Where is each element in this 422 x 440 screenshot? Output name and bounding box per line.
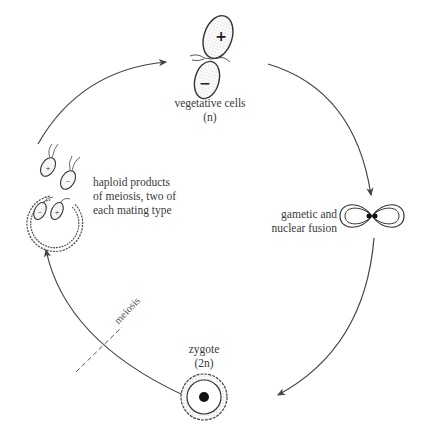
svg-text:+: + [215, 28, 227, 44]
haploid-label-line1: haploid products [93, 175, 176, 189]
zygote-label: zygote (2n) [164, 342, 244, 370]
haploid-label-line3: each mating type [93, 203, 176, 217]
zygote-label-text: zygote [164, 342, 244, 356]
gametic-fusion-icon [340, 205, 404, 228]
svg-text:−: − [38, 208, 43, 217]
svg-text:+: + [46, 164, 51, 173]
vegetative-cells-icon: + − [190, 12, 238, 102]
arrow-zygote-to-haploid [46, 250, 183, 395]
haploid-products-icon: + − − + [29, 144, 81, 250]
fusion-label: gametic and nuclear fusion [240, 207, 337, 235]
svg-text:−: − [199, 75, 211, 91]
svg-text:−: − [66, 177, 71, 186]
fusion-label-line1: gametic and [240, 207, 337, 221]
zygote-icon [181, 374, 227, 420]
zygote-ploidy-text: (2n) [164, 356, 244, 370]
arrow-vegetative-to-fusion [268, 64, 371, 195]
meiosis-dashed-line [76, 327, 122, 372]
arrow-fusion-to-zygote [278, 238, 374, 395]
fusion-label-line2: nuclear fusion [240, 221, 337, 235]
svg-text:+: + [55, 208, 60, 217]
arrow-haploid-to-vegetative [38, 62, 166, 144]
vegetative-cells-label: vegetative cells (n) [160, 96, 260, 124]
haploid-label-line2: of meiosis, two of [93, 189, 176, 203]
haploid-label: haploid products of meiosis, two of each… [93, 175, 176, 217]
life-cycle-diagram: + − + − − + [0, 0, 422, 440]
vegetative-ploidy-text: (n) [160, 110, 260, 124]
vegetative-label-text: vegetative cells [160, 96, 260, 110]
